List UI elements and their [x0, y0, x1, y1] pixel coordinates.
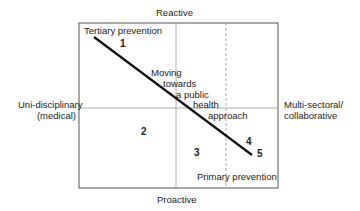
moving-label-5: approach — [208, 110, 248, 121]
moving-label-4: health — [193, 99, 219, 110]
point-1: 1 — [120, 38, 126, 49]
trajectory-line — [94, 37, 252, 155]
moving-label-2: towards — [163, 78, 196, 89]
axis-right-label-2: collaborative — [284, 110, 337, 121]
tertiary-prevention-label: Tertiary prevention — [84, 25, 162, 36]
point-5: 5 — [257, 148, 263, 159]
axis-bottom-label: Proactive — [157, 194, 197, 205]
point-3: 3 — [194, 147, 200, 158]
point-4: 4 — [246, 136, 252, 147]
axis-left-label-1: Uni-disciplinary — [18, 99, 76, 110]
primary-prevention-label: Primary prevention — [197, 171, 277, 182]
point-2: 2 — [141, 126, 147, 137]
axis-right-label-1: Multi-sectoral/ — [284, 99, 343, 110]
axis-top-label: Reactive — [156, 7, 193, 18]
moving-label-1: Moving — [151, 67, 182, 78]
axis-left-label-2: (medical) — [18, 110, 76, 121]
